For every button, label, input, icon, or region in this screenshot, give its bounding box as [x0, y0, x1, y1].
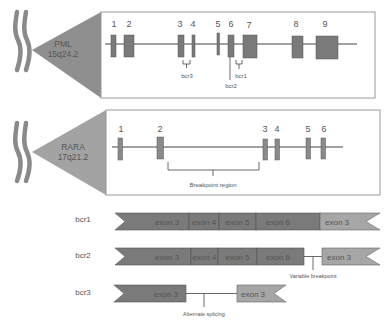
rara-exon-6	[321, 138, 326, 159]
transcript-bcr3: bcr3 exon 3 exon 3 Alternate splicing	[75, 285, 286, 317]
segment-label: exon 3	[155, 218, 180, 227]
transcript-label: bcr3	[75, 288, 91, 297]
pml-section: PML 15q24.2 1 2 3 4 5 6 7 8 9	[15, 12, 375, 98]
segment-label: exon 3	[241, 290, 266, 299]
transcript-label: bcr2	[75, 251, 91, 260]
transcript-bcr1: bcr1 exon 3 exon 4 exon 5 exon 6 exon 3	[75, 213, 380, 230]
rara-gene-box	[106, 110, 380, 195]
pml-exon-7	[243, 35, 257, 58]
breakpoint-region-label: Breakpoint region	[189, 182, 236, 188]
pml-exon-6	[228, 35, 234, 57]
rara-exon-label: 4	[274, 124, 279, 134]
bcr1-label: bcr1	[235, 73, 247, 79]
pml-exon-2	[124, 35, 134, 57]
bcr3-label: bcr3	[181, 73, 193, 79]
gene-locus: 17q21.2	[58, 152, 89, 162]
pml-exon-label: 9	[322, 19, 327, 29]
segment-label: exon 3	[154, 290, 179, 299]
rara-exon-label: 5	[305, 124, 310, 134]
chromosome-icon	[15, 123, 29, 181]
gene-name: PML	[54, 39, 72, 49]
segment-label: exon 5	[225, 218, 250, 227]
rara-section: RARA 17q21.2 1 2 3 4 5 6 Breakpoint regi…	[15, 110, 380, 195]
pml-exon-5	[217, 33, 220, 55]
gene-locus: 15q24.2	[48, 49, 79, 59]
pml-exon-4	[192, 35, 195, 57]
pml-exon-label: 8	[293, 19, 298, 29]
pml-exon-label: 4	[190, 19, 195, 29]
variable-breakpoint-label: Variable breakpoint	[290, 273, 337, 279]
rara-exon-3	[263, 139, 268, 160]
rara-exon-4	[275, 139, 280, 160]
rara-exon-5	[306, 138, 311, 159]
pml-exon-8	[292, 36, 303, 58]
alternate-splicing-label: Alternate splicing	[183, 311, 225, 317]
segment-label: exon 4	[192, 218, 217, 227]
gene-name: RARA	[61, 142, 85, 152]
bcr2-label: bcr2	[225, 83, 237, 89]
transcript-label: bcr1	[75, 215, 91, 224]
segment-label: exon 6	[266, 218, 291, 227]
pml-exon-label: 1	[111, 19, 116, 29]
pml-exon-label: 5	[215, 19, 220, 29]
pml-exon-label: 7	[246, 20, 251, 30]
segment-label: exon 3	[325, 218, 350, 227]
segment-label: exon 6	[266, 253, 291, 262]
rara-exon-label: 2	[157, 124, 162, 134]
pml-exon-label: 3	[177, 19, 182, 29]
rara-exon-1	[118, 138, 123, 160]
pml-exon-3	[178, 35, 184, 57]
segment-label: exon 3	[155, 253, 180, 262]
rara-exon-label: 6	[321, 124, 326, 134]
segment-label: exon 5	[225, 253, 250, 262]
segment-label: exon 3	[327, 253, 352, 262]
chromosome-icon	[15, 12, 29, 70]
rara-exon-label: 3	[262, 124, 267, 134]
segment-label: exon 4	[192, 253, 217, 262]
pml-exon-label: 6	[228, 19, 233, 29]
transcript-bcr2: bcr2 exon 3 exon 4 exon 5 exon 6 exon 3 …	[75, 248, 380, 279]
rara-exon-2	[157, 137, 164, 159]
pml-exon-label: 2	[126, 19, 131, 29]
rara-exon-label: 1	[118, 124, 123, 134]
pml-rara-diagram: PML 15q24.2 1 2 3 4 5 6 7 8 9	[0, 0, 390, 328]
pml-exon-9	[316, 36, 338, 59]
pml-exon-1	[111, 35, 116, 57]
